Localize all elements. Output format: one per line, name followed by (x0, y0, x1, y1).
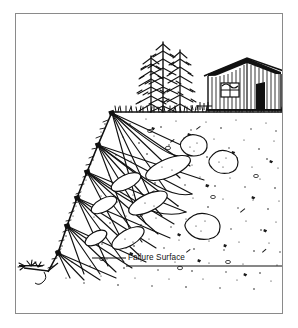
tree-conifer-right (164, 50, 196, 112)
tree-conifer-center (143, 42, 183, 112)
tree-conifer-left (136, 56, 166, 112)
slope-failure-diagram (0, 0, 298, 328)
conifer-trees (136, 42, 196, 112)
figure-root: Failure Surface (0, 0, 298, 328)
barn (192, 58, 284, 111)
barn-window (221, 83, 239, 97)
failure-surface-label: Failure Surface (128, 253, 185, 262)
